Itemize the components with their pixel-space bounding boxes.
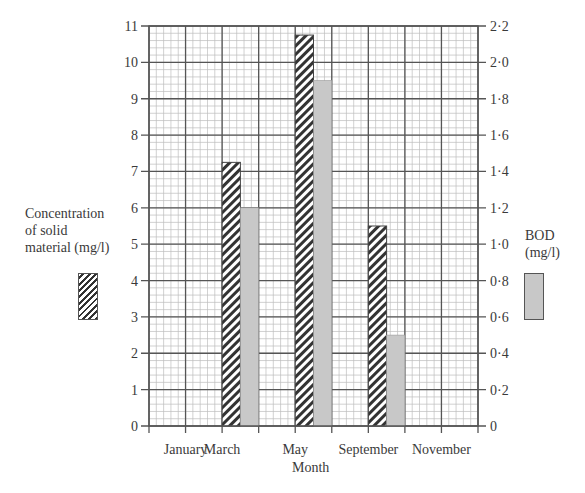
right-tick-label: 2·2 [490,19,509,34]
left-tick-label: 10 [124,55,138,70]
left-axis-label-line3: material (mg/l) [25,239,109,256]
legend-hatched-swatch [78,273,98,320]
right-tick-label: 0·8 [490,274,509,289]
left-tick-label: 5 [131,237,138,252]
right-tick-label: 0·2 [490,383,509,398]
left-tick-label: 0 [131,419,138,434]
right-axis-label: BOD (mg/l) [525,227,560,261]
right-axis-label-line1: BOD [525,227,560,244]
bar-solid-may [295,35,313,426]
right-tick-label: 1·6 [490,128,509,143]
left-tick-label: 1 [131,383,138,398]
left-tick-label: 6 [131,201,138,216]
x-tick-label: May [282,442,308,457]
right-tick-label: 1·8 [490,92,509,107]
x-tick-label: November [412,442,471,457]
left-axis-label-line1: Concentration [25,205,109,222]
left-tick-label: 7 [131,164,138,179]
bars [222,35,405,426]
left-axis-label: Concentration of solid material (mg/l) [25,205,109,256]
right-tick-label: 2·0 [490,55,509,70]
x-tick-label: January [164,442,208,457]
left-tick-label: 2 [131,346,138,361]
x-axis-label: Month [292,459,329,476]
right-tick-label: 0 [490,419,497,434]
bar-bod-may [314,81,332,426]
right-tick-label: 1·0 [490,237,509,252]
right-tick-label: 1·2 [490,201,509,216]
right-tick-label: 0·4 [490,346,509,361]
bar-bod-march [240,208,258,426]
bar-solid-march [222,162,240,426]
legend-grey-swatch [524,273,544,320]
left-tick-label: 4 [131,274,138,289]
right-tick-label: 1·4 [490,164,509,179]
left-axis-label-line2: of solid [25,222,109,239]
x-tick-label: September [338,442,398,457]
bar-bod-september [387,335,405,426]
bar-solid-september [368,226,386,426]
right-axis-label-line2: (mg/l) [525,244,560,261]
left-tick-label: 3 [131,310,138,325]
left-tick-label: 8 [131,128,138,143]
right-tick-label: 0·6 [490,310,509,325]
left-tick-label: 11 [125,19,138,34]
left-tick-label: 9 [131,92,138,107]
x-tick-label: March [204,442,241,457]
